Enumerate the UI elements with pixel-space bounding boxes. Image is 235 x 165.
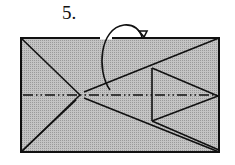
origami-diagram [0,0,235,165]
